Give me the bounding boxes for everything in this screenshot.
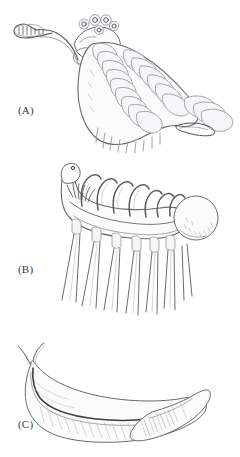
specimen-b-drawing bbox=[61, 163, 218, 315]
panel-b-label: (B) bbox=[18, 263, 33, 275]
posterior-bulb bbox=[174, 196, 218, 240]
panel-c-label: (C) bbox=[18, 418, 33, 430]
panel-b: (B) bbox=[0, 150, 240, 318]
head bbox=[61, 163, 80, 183]
specimen-a-drawing bbox=[14, 15, 233, 153]
panel-a: (A) bbox=[0, 0, 240, 150]
panel-c: (C) bbox=[0, 318, 240, 457]
figure-plate: (A) bbox=[0, 0, 240, 457]
panel-a-label: (A) bbox=[18, 104, 34, 116]
specimen-c-drawing bbox=[18, 343, 210, 442]
proboscis bbox=[14, 24, 79, 65]
body-trunk bbox=[25, 361, 206, 442]
